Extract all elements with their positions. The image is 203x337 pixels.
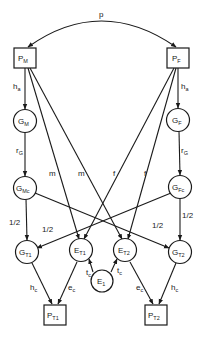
edge-PF-ET1 — [84, 68, 174, 239]
edge-label-p: p — [99, 10, 104, 19]
edge-PM-ET2 — [30, 68, 122, 239]
edge-GF-GFc — [179, 131, 180, 175]
node-E1: E1 — [91, 270, 113, 292]
edge-label-half-right-down: 1/2 — [182, 211, 194, 220]
edge-label-f1: f — [113, 169, 116, 178]
node-ET2: ET2 — [114, 239, 137, 262]
edge-GMc-GT1 — [26, 199, 27, 240]
node-ET1: ET1 — [70, 239, 93, 262]
edge-label-rg-left: rG — [16, 146, 23, 156]
edge-label-half-left-down: 1/2 — [9, 218, 21, 227]
node-GF: GF — [167, 109, 190, 132]
edge-p-correlation — [28, 21, 176, 47]
node-GMc: GMc — [14, 177, 37, 200]
node-PF: PF — [167, 48, 189, 68]
edge-label-ec-left: ec — [68, 283, 75, 293]
edge-label-half-right-cross: 1/2 — [152, 221, 164, 230]
node-PT1: PT1 — [44, 305, 66, 325]
edge-label-m1: m — [49, 169, 56, 178]
edge-E1-ET1 — [89, 259, 93, 272]
edge-label-tc-right: tc — [117, 266, 122, 276]
edge-label-ha-right: ha — [181, 82, 189, 92]
edge-label-half-left-cross: 1/2 — [42, 225, 54, 234]
node-GM: GM — [14, 110, 37, 133]
edge-label-ha-left: ha — [13, 82, 21, 92]
edge-label-hc-right: hc — [171, 283, 178, 293]
path-diagram: p ha ha rG rG m m f f 1/2 1/2 1/2 1/2 tc… — [0, 0, 203, 337]
node-GFc: GFc — [169, 176, 192, 199]
edge-label-rg-right: rG — [181, 146, 188, 156]
node-PM: PM — [14, 48, 36, 68]
edge-PM-ET1 — [28, 68, 79, 239]
node-PT2: PT2 — [145, 305, 167, 325]
node-GT1: GT1 — [16, 241, 39, 264]
node-GT2: GT2 — [169, 241, 192, 264]
edge-label-hc-left: hc — [30, 283, 37, 293]
edge-GT1-PT1 — [32, 263, 52, 304]
edge-label-m2: m — [78, 169, 85, 178]
edge-PF-ET2 — [128, 68, 176, 239]
edge-ET2-PT2 — [130, 262, 153, 304]
edge-label-tc-left: tc — [86, 268, 91, 278]
